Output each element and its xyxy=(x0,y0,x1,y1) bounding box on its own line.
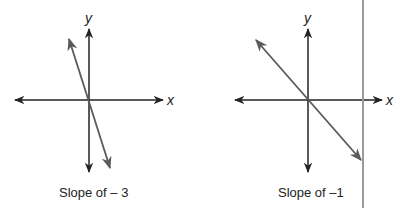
left-y-label: y xyxy=(85,10,92,26)
right-y-label: y xyxy=(304,10,311,26)
right-caption: Slope of –1 xyxy=(278,185,344,200)
left-caption: Slope of – 3 xyxy=(59,185,128,200)
diagram-canvas xyxy=(0,0,405,210)
divider-line xyxy=(362,0,364,208)
left-x-label: x xyxy=(167,92,174,108)
left-graph xyxy=(15,29,163,172)
right-graph xyxy=(235,29,382,172)
right-x-label: x xyxy=(386,92,393,108)
